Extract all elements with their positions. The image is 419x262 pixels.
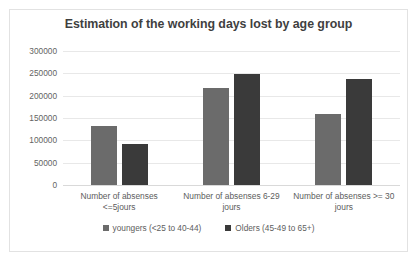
y-axis-tick-label: 250000 — [29, 68, 57, 78]
bar-group — [175, 51, 287, 185]
bar[interactable] — [315, 114, 341, 185]
x-axis-category-label: Number of absenses <=5jours — [63, 191, 175, 213]
y-axis-tick-label: 100000 — [29, 135, 57, 145]
y-axis-tick-label: 200000 — [29, 91, 57, 101]
y-axis-tick-label: 300000 — [29, 46, 57, 56]
bar-group — [63, 51, 175, 185]
bar[interactable] — [234, 74, 260, 185]
bar[interactable] — [91, 126, 117, 185]
x-axis-category-label: Number of absenses 6-29 jours — [175, 191, 287, 213]
legend-swatch-icon — [225, 225, 231, 231]
axis-baseline — [63, 185, 400, 186]
legend-item[interactable]: youngers (<25 to 40-44) — [103, 223, 202, 233]
bar[interactable] — [346, 79, 372, 185]
chart-card: Estimation of the working days lost by a… — [9, 9, 408, 252]
legend-label: Olders (45-49 to 65+) — [235, 223, 314, 233]
x-axis-category-label: Number of absenses >= 30 jours — [288, 191, 400, 213]
bar-groups — [63, 51, 400, 185]
plot-area: 300000250000200000150000100000500000 — [63, 51, 400, 185]
y-axis-tick-label: 50000 — [34, 158, 57, 168]
y-axis-tick-label: 0 — [52, 180, 57, 190]
legend-item[interactable]: Olders (45-49 to 65+) — [225, 223, 314, 233]
bar[interactable] — [203, 88, 229, 185]
bar-group — [288, 51, 400, 185]
y-axis-tick-label: 150000 — [29, 113, 57, 123]
chart-title: Estimation of the working days lost by a… — [10, 17, 407, 31]
legend-label: youngers (<25 to 40-44) — [113, 223, 202, 233]
bar[interactable] — [122, 144, 148, 185]
x-axis-category-labels: Number of absenses <=5joursNumber of abs… — [63, 191, 400, 213]
chart-legend: youngers (<25 to 40-44)Olders (45-49 to … — [10, 223, 407, 233]
legend-swatch-icon — [103, 225, 109, 231]
